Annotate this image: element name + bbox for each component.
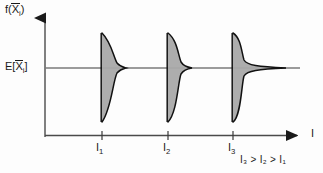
mean-axis-label: E[Xi]: [5, 61, 28, 72]
x-tick-label-1-sub: 1: [99, 147, 103, 156]
x-tick-label-3-sub: 3: [231, 147, 235, 156]
ordering-annotation: I₃ > I₂ > I₁: [240, 155, 286, 165]
x-tick-label-1: I1: [96, 142, 103, 153]
distribution-fill-1: [102, 33, 126, 122]
y-axis-label-prefix: f(: [5, 3, 12, 15]
distribution-at-I1: [101, 33, 126, 122]
y-axis-label-var: X: [12, 4, 19, 15]
x-tick-label-2-sub: 2: [166, 147, 170, 156]
mean-label-prefix: E[: [5, 60, 15, 72]
y-axis-label: f(Xi): [5, 4, 24, 15]
y-axis-label-suffix: ): [21, 3, 25, 15]
distribution-at-I2: [167, 33, 192, 122]
chart-canvas: [0, 0, 323, 173]
distribution-at-I3: [232, 33, 286, 122]
mean-label-var: X: [15, 61, 22, 72]
x-tick-label-3: I3: [228, 142, 235, 153]
sampling-distribution-figure: f(Xi) E[Xi] I I1 I2 I3 I₃ > I₂ > I₁: [0, 0, 323, 173]
x-tick-label-2: I2: [163, 142, 170, 153]
mean-label-suffix: ]: [24, 60, 27, 72]
x-axis-label: I: [311, 128, 314, 139]
